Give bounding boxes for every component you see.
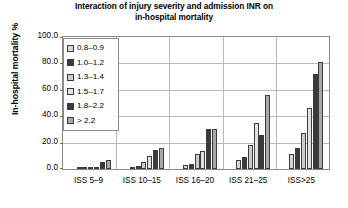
x-axis-tick-labels: ISS 5–9ISS 10–15ISS 16–20ISS 21–25ISS>25 [62,176,330,196]
bar [147,156,152,169]
bar [88,167,93,169]
bar [195,154,200,169]
bar [82,167,87,169]
bar [301,133,306,169]
legend-swatch [67,117,74,124]
legend-item: 0.8–0.9 [67,41,115,56]
bar [254,123,259,169]
category-separator [223,37,224,169]
bar [106,160,111,169]
legend-label: 0.8–0.9 [77,44,104,52]
legend-item: 1.3–1.4 [67,70,115,85]
bar [318,62,323,169]
bar [295,148,300,169]
y-tick-label: 40.0 [18,111,58,119]
bar [159,148,164,169]
y-tick-label: 80.0 [18,58,58,66]
legend-swatch [67,59,74,66]
bar [136,166,141,169]
bar [94,167,99,169]
legend-swatch [67,74,74,81]
bar [236,160,241,169]
bar [307,108,312,169]
bar [130,167,135,169]
legend-swatch [67,88,74,95]
y-tick-mark [60,143,63,144]
y-tick-label: 100.0 [18,32,58,40]
bar [183,165,188,169]
y-tick-label: 20.0 [18,138,58,146]
legend-item: > 2.2 [67,114,115,129]
legend-label: > 2.2 [77,117,95,125]
category-separator [169,37,170,169]
bar [212,129,217,169]
gridline [63,143,329,144]
bar [189,164,194,169]
bar [153,150,158,169]
bar [259,135,264,169]
bar [313,74,318,169]
y-tick-label: 0.0 [18,164,58,172]
x-tick-label: ISS>25 [269,176,334,185]
bar [100,162,105,169]
bar [200,151,205,169]
y-tick-mark [60,168,63,169]
bar [206,129,211,169]
category-separator [276,37,277,169]
legend-swatch [67,45,74,52]
bar [265,95,270,169]
chart-legend: 0.8–0.91.0–1.21.3–1.41.5–1.71.8–2.2> 2.2 [63,38,119,131]
y-axis-tick-labels: 0.020.040.060.080.0100.0 [18,0,58,208]
legend-label: 1.5–1.7 [77,88,104,96]
legend-item: 1.0–1.2 [67,56,115,71]
legend-label: 1.0–1.2 [77,59,104,67]
chart-figure: Interaction of injury severity and admis… [0,0,348,208]
bar [248,145,253,169]
legend-item: 1.5–1.7 [67,85,115,100]
legend-label: 1.3–1.4 [77,73,104,81]
bar [289,154,294,169]
y-tick-label: 60.0 [18,85,58,93]
legend-item: 1.8–2.2 [67,99,115,114]
bar [77,167,82,169]
bar [242,157,247,169]
bar [141,162,146,169]
legend-label: 1.8–2.2 [77,102,104,110]
legend-swatch [67,103,74,110]
